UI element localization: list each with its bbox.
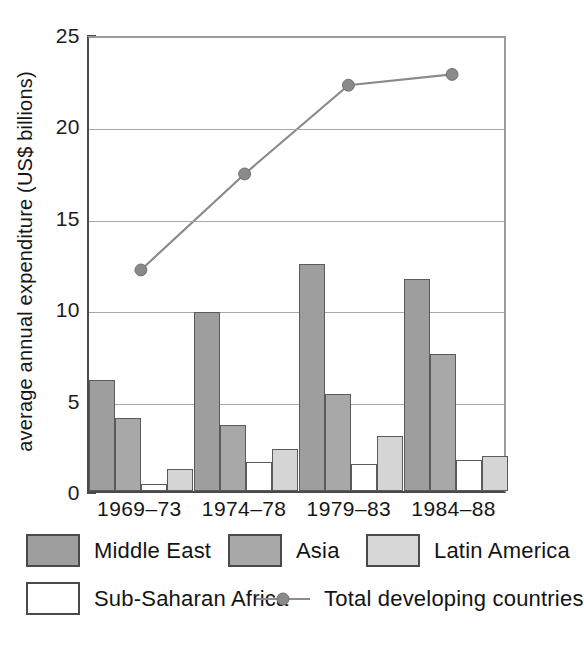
bar-latin-america-1969-73	[167, 469, 193, 491]
bar-sub-saharan-africa-1974-78	[246, 462, 272, 491]
legend-item-middle-east[interactable]: Middle East	[26, 534, 211, 567]
bar-asia-1984-88	[430, 354, 456, 491]
legend-row-1: Middle EastAsiaLatin America	[26, 534, 538, 574]
bar-asia-1969-73	[115, 418, 141, 491]
x-axis-label-3: 1984–88	[411, 497, 496, 521]
bar-latin-america-1974-78	[272, 449, 298, 491]
gridline-15	[89, 221, 504, 222]
bar-latin-america-1984-88	[482, 456, 508, 491]
line-point-1979-83	[342, 79, 354, 91]
x-axis-label-0: 1969–73	[97, 497, 182, 521]
legend-swatch-middle-east	[26, 534, 80, 567]
plot-area	[87, 36, 506, 493]
legend-item-sub-saharan-africa[interactable]: Sub-Saharan Africa	[26, 582, 288, 615]
legend-label: Middle East	[94, 538, 211, 564]
gridline-20	[89, 129, 504, 130]
line-point-1984-88	[446, 68, 458, 80]
bar-asia-1974-78	[220, 425, 246, 491]
legend-label: Asia	[296, 538, 340, 564]
bar-sub-saharan-africa-1979-83	[351, 464, 377, 491]
bar-sub-saharan-africa-1969-73	[141, 484, 167, 491]
legend-label: Total developing countries	[324, 586, 584, 612]
legend-swatch-asia	[228, 534, 282, 567]
x-axis-label-2: 1979–83	[307, 497, 392, 521]
legend-row-2: Sub-Saharan AfricaTotal developing count…	[26, 582, 538, 622]
y-tick-label-10: 10	[56, 298, 80, 322]
bar-asia-1979-83	[325, 394, 351, 491]
legend-item-latin-america[interactable]: Latin America	[366, 534, 570, 567]
bar-middle-east-1974-78	[194, 312, 220, 491]
legend-line-dot-icon	[277, 592, 290, 605]
y-tick-label-5: 5	[68, 390, 80, 414]
legend-item-total-developing-countries[interactable]: Total developing countries	[256, 582, 584, 615]
legend-line-marker-total-developing	[256, 582, 310, 615]
bar-sub-saharan-africa-1984-88	[456, 460, 482, 491]
y-tick-label-0: 0	[68, 481, 80, 505]
x-axis-label-1: 1974–78	[202, 497, 287, 521]
y-axis-ticks: 0510152025	[38, 36, 80, 493]
bar-latin-america-1979-83	[377, 436, 403, 491]
bar-middle-east-1979-83	[299, 264, 325, 491]
y-tick-label-20: 20	[56, 115, 80, 139]
gridline-10	[89, 312, 504, 313]
bar-middle-east-1984-88	[404, 279, 430, 491]
line-point-1969-73	[135, 264, 147, 276]
chart-legend: Middle EastAsiaLatin America Sub-Saharan…	[26, 534, 538, 632]
legend-swatch-sub-saharan-africa	[26, 582, 80, 615]
legend-item-asia[interactable]: Asia	[228, 534, 340, 567]
legend-swatch-latin-america	[366, 534, 420, 567]
x-axis-labels: 1969–731974–781979–831984–88	[87, 497, 506, 527]
legend-label: Latin America	[434, 538, 570, 564]
total-developing-countries-line	[141, 74, 452, 270]
line-point-1974-78	[239, 168, 251, 180]
y-tick-label-15: 15	[56, 207, 80, 231]
y-axis-title: average annual expenditure (US$ billions…	[14, 47, 37, 477]
y-tick-label-25: 25	[56, 24, 80, 48]
bar-middle-east-1969-73	[89, 380, 115, 492]
